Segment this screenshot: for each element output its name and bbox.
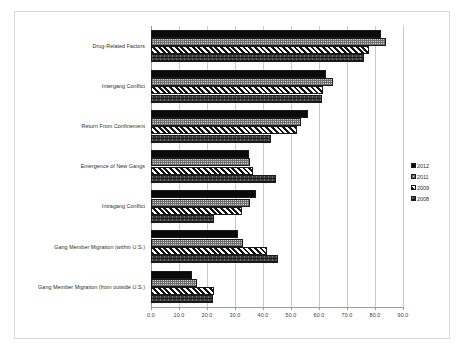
bar	[151, 199, 250, 207]
bar	[151, 135, 271, 143]
bar	[151, 118, 301, 126]
x-tick-label: 80.0	[360, 312, 390, 318]
category-label: Drug-Related Factors	[92, 43, 145, 49]
bar	[151, 126, 297, 134]
bar	[151, 78, 333, 86]
bar	[151, 295, 213, 303]
bar	[151, 46, 369, 54]
legend-label: 2012	[417, 163, 429, 169]
tick-mark-90-0	[403, 307, 404, 310]
category-label: Emergence of New Gangs	[81, 163, 145, 169]
bar	[151, 54, 364, 62]
legend-item-2011[interactable]: 2011	[411, 171, 455, 182]
x-axis-line	[151, 307, 404, 308]
bar	[151, 158, 250, 166]
legend-label: 2011	[417, 174, 429, 180]
x-tick-label: 40.0	[248, 312, 278, 318]
plot-area	[151, 26, 403, 307]
tick-mark-40-0	[263, 307, 264, 310]
chart-frame: 0.010.020.030.040.050.060.070.080.090.0 …	[14, 11, 450, 339]
x-tick-label: 20.0	[192, 312, 222, 318]
gridline-90-0	[403, 26, 404, 307]
bar	[151, 207, 242, 215]
x-tick-label: 30.0	[220, 312, 250, 318]
x-tick-label: 10.0	[164, 312, 194, 318]
category-label: Gang Member Migration (from outside U.S.…	[38, 284, 145, 290]
x-tick-label: 70.0	[332, 312, 362, 318]
bar	[151, 247, 267, 255]
tick-mark-0-0	[151, 307, 152, 310]
x-tick-label: 0.0	[136, 312, 166, 318]
x-tick-label: 50.0	[276, 312, 306, 318]
legend-item-2012[interactable]: 2012	[411, 160, 455, 171]
bar	[151, 86, 323, 94]
legend-swatch-icon	[411, 174, 416, 179]
bar	[151, 38, 386, 46]
bar	[151, 279, 197, 287]
bar	[151, 150, 249, 158]
x-tick-label: 90.0	[388, 312, 418, 318]
category-label: Return From Confinement	[82, 123, 145, 129]
tick-mark-50-0	[291, 307, 292, 310]
bar	[151, 95, 322, 103]
category-label: Intragang Conflict	[102, 203, 145, 209]
x-tick-label: 60.0	[304, 312, 334, 318]
tick-mark-60-0	[319, 307, 320, 310]
bar	[151, 255, 278, 263]
bar	[151, 287, 214, 295]
bar	[151, 30, 381, 38]
legend-item-2009[interactable]: 2009	[411, 182, 455, 193]
bar	[151, 271, 192, 279]
bar	[151, 175, 276, 183]
legend-swatch-icon	[411, 196, 416, 201]
category-label: Intergang Conflict	[102, 83, 145, 89]
tick-mark-80-0	[375, 307, 376, 310]
tick-mark-30-0	[235, 307, 236, 310]
tick-mark-70-0	[347, 307, 348, 310]
bar	[151, 167, 253, 175]
bar	[151, 110, 308, 118]
legend-label: 2009	[417, 185, 429, 191]
chart-legend: 2012201120092008	[411, 160, 455, 204]
bar	[151, 190, 256, 198]
bar	[151, 215, 214, 223]
legend-item-2008[interactable]: 2008	[411, 193, 455, 204]
category-label: Gang Member Migration (within U.S.)	[54, 244, 145, 250]
bar	[151, 70, 326, 78]
bar	[151, 239, 243, 247]
bar	[151, 230, 238, 238]
legend-swatch-icon	[411, 185, 416, 190]
tick-mark-10-0	[179, 307, 180, 310]
legend-swatch-icon	[411, 163, 416, 168]
tick-mark-20-0	[207, 307, 208, 310]
legend-label: 2008	[417, 196, 429, 202]
